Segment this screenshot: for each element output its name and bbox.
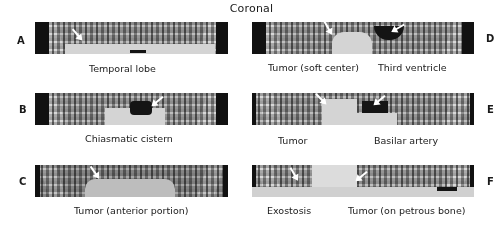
caption-tumor-anterior-portion: Tumor (anterior portion) xyxy=(74,205,188,216)
caption-exostosis: Exostosis xyxy=(267,205,311,216)
caption-temporal-lobe: Temporal lobe xyxy=(89,63,156,74)
caption-third-ventricle: Third ventricle xyxy=(378,62,447,73)
caption-chiasmatic-cistern: Chiasmatic cistern xyxy=(85,133,173,144)
panel-letter-d: D xyxy=(486,33,494,44)
ct-scan-panel-d xyxy=(252,22,474,54)
caption-tumor-soft-center: Tumor (soft center) xyxy=(268,62,359,73)
panel-letter-e: E xyxy=(487,104,494,115)
panel-letter-a: A xyxy=(17,35,25,46)
figure-title: Coronal xyxy=(0,2,503,15)
ct-scan-panel-e xyxy=(252,93,474,125)
ct-scan-panel-f xyxy=(252,165,474,197)
ct-scan-panel-c xyxy=(35,165,228,197)
caption-basilar-artery: Basilar artery xyxy=(374,135,438,146)
ct-scan-panel-a xyxy=(35,22,228,54)
caption-tumor-on-petrous-bone: Tumor (on petrous bone) xyxy=(348,205,465,216)
panel-letter-b: B xyxy=(19,104,27,115)
panel-letter-f: F xyxy=(487,176,494,187)
caption-tumor: Tumor xyxy=(278,135,307,146)
ct-scan-panel-b xyxy=(35,93,228,125)
panel-letter-c: C xyxy=(19,176,26,187)
